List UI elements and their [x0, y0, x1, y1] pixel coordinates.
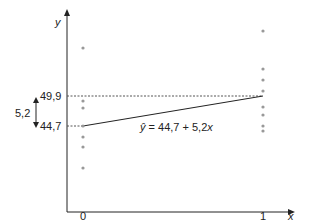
scatter-point: [81, 99, 84, 102]
scatter-point: [261, 124, 264, 127]
scatter-point: [261, 105, 264, 108]
scatter-point: [261, 113, 264, 116]
scatter-point: [81, 106, 84, 109]
x-tick-1: 1: [260, 210, 266, 222]
points-x0: [81, 46, 84, 169]
level-low-label: 44,7: [40, 120, 61, 132]
points-x1: [261, 29, 264, 132]
scatter-point: [81, 46, 84, 49]
arrow-down-icon: [33, 122, 39, 128]
equation-body: = 44,7 + 5,2: [146, 121, 208, 133]
y-axis-label: y: [54, 16, 62, 28]
scatter-point: [81, 166, 84, 169]
regression-equation: ŷ = 44,7 + 5,2x: [139, 121, 213, 133]
scatter-point: [81, 135, 84, 138]
level-high-label: 49,9: [40, 90, 61, 102]
scatter-point: [261, 78, 264, 81]
arrow-up-icon: [33, 97, 39, 103]
scatter-point: [81, 124, 84, 127]
regression-chart: y x 0 1 49,9 44,7 5,2 ŷ = 44,7 + 5,2x: [0, 0, 314, 223]
equation-x: x: [206, 121, 213, 133]
difference-label: 5,2: [15, 107, 30, 119]
scatter-point: [261, 129, 264, 132]
scatter-point: [81, 145, 84, 148]
scatter-point: [261, 67, 264, 70]
scatter-point: [261, 29, 264, 32]
x-axis-label: x: [287, 210, 294, 222]
scatter-point: [261, 89, 264, 92]
y-axis-arrow-icon: [64, 9, 70, 16]
x-tick-0: 0: [80, 210, 86, 222]
